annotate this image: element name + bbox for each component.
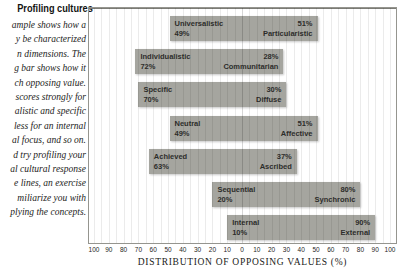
x-tick-label: 60 bbox=[327, 246, 334, 254]
x-tick-label: 50 bbox=[164, 246, 171, 254]
sidebar-line: al focus, and so on. bbox=[10, 132, 86, 146]
bar-left-value: 20% bbox=[217, 195, 232, 205]
x-tick-label: 50 bbox=[312, 246, 319, 254]
x-tick-label: 100 bbox=[89, 246, 100, 254]
x-tick-label: 70 bbox=[135, 246, 142, 254]
x-tick-label: 30 bbox=[194, 246, 201, 254]
sidebar-heading: Profiling cultures bbox=[17, 2, 86, 14]
x-tick-label: 30 bbox=[283, 246, 290, 254]
bar-right-label: Diffuse bbox=[256, 95, 281, 105]
bar-right-label: Affective bbox=[281, 129, 313, 139]
bar-left-value: 72% bbox=[140, 62, 155, 72]
bar-left-value: 70% bbox=[143, 95, 158, 105]
x-tick-label: 80 bbox=[120, 246, 127, 254]
bar-left-value: 49% bbox=[175, 129, 190, 139]
bar-right-label: Ascribed bbox=[260, 162, 292, 172]
bar-left-label: Specific bbox=[143, 85, 172, 95]
sidebar-line: n dimensions. The bbox=[10, 46, 86, 60]
bar-left-label: Achieved bbox=[154, 152, 187, 162]
sidebar-line: e lines, an exercise bbox=[10, 175, 86, 189]
sidebar-line: y be characterized bbox=[10, 31, 86, 45]
bar-left-value: 49% bbox=[175, 29, 190, 39]
bar-right-value: 30% bbox=[266, 85, 281, 95]
bar-right-label: External bbox=[341, 228, 371, 238]
bar-left-label: Individualistic bbox=[140, 52, 190, 62]
bar-right-label: Particularistic bbox=[263, 29, 313, 39]
sidebar-line: alistic and specific bbox=[10, 103, 86, 117]
sidebar-line: plying the concepts. bbox=[10, 204, 86, 218]
chart-bar: Individualistic28%72%Communitarian bbox=[135, 49, 283, 74]
bar-right-value: 90% bbox=[355, 218, 370, 228]
x-axis-title: DISTRIBUTION OF OPPOSING VALUES (%) bbox=[89, 257, 396, 267]
x-tick-label: 0 bbox=[240, 246, 244, 254]
x-tick-label: 90 bbox=[105, 246, 112, 254]
x-tick-label: 60 bbox=[150, 246, 157, 254]
book-figure-page: Profiling cultures ample shows how ay be… bbox=[0, 0, 398, 270]
x-tick-label: 40 bbox=[298, 246, 305, 254]
bar-left-label: Universalistic bbox=[175, 19, 224, 29]
bar-right-value: 51% bbox=[297, 119, 312, 129]
x-tick-label: 10 bbox=[253, 246, 260, 254]
x-tick-label: 70 bbox=[342, 246, 349, 254]
bar-right-label: Synchronic bbox=[315, 195, 356, 205]
x-tick-label: 100 bbox=[385, 246, 396, 254]
chart-bar: Sequential80%20%Synchronic bbox=[212, 182, 360, 207]
x-tick-label: 20 bbox=[268, 246, 275, 254]
bar-left-value: 10% bbox=[232, 228, 247, 238]
bar-right-value: 80% bbox=[340, 185, 355, 195]
chart-bar: Achieved37%63%Ascribed bbox=[149, 149, 297, 174]
bar-left-label: Sequential bbox=[217, 185, 255, 195]
sidebar-line: miliarize you with bbox=[10, 190, 86, 204]
sidebar-body-text: ample shows how ay be characterizedn dim… bbox=[10, 17, 86, 219]
sidebar-line: ch opposing value. bbox=[10, 75, 86, 89]
chart-bar: Neutral51%49%Affective bbox=[170, 116, 318, 141]
x-tick-label: 40 bbox=[179, 246, 186, 254]
chart-plot-area: Universalistic51%49%ParticularisticIndiv… bbox=[88, 7, 397, 244]
chart-bar: Universalistic51%49%Particularistic bbox=[170, 16, 318, 41]
bar-left-value: 63% bbox=[154, 162, 169, 172]
bar-right-value: 28% bbox=[263, 52, 278, 62]
bar-right-value: 51% bbox=[297, 19, 312, 29]
bar-left-label: Neutral bbox=[175, 119, 201, 129]
chart-bar: Internal90%10%External bbox=[227, 215, 375, 240]
chart-bars-layer: Universalistic51%49%ParticularisticIndiv… bbox=[89, 8, 396, 243]
bar-left-label: Internal bbox=[232, 218, 259, 228]
x-axis-tick-labels: 1009080706050403020100102030405060708090… bbox=[89, 246, 396, 254]
sidebar-line: ample shows how a bbox=[10, 17, 86, 31]
x-tick-label: 20 bbox=[209, 246, 216, 254]
sidebar-text-column: Profiling cultures ample shows how ay be… bbox=[0, 2, 86, 219]
sidebar-line: scores strongly for bbox=[10, 89, 86, 103]
x-tick-label: 80 bbox=[357, 246, 364, 254]
sidebar-line: d try profiling your bbox=[10, 147, 86, 161]
bar-right-value: 37% bbox=[277, 152, 292, 162]
bar-right-label: Communitarian bbox=[223, 62, 278, 72]
sidebar-line: al cultural response bbox=[10, 161, 86, 175]
chart-bar: Specific30%70%Diffuse bbox=[138, 82, 286, 107]
sidebar-line: less for an internal bbox=[10, 118, 86, 132]
x-tick-label: 10 bbox=[224, 246, 231, 254]
x-tick-label: 90 bbox=[372, 246, 379, 254]
sidebar-line: g bar shows how it bbox=[10, 60, 86, 74]
